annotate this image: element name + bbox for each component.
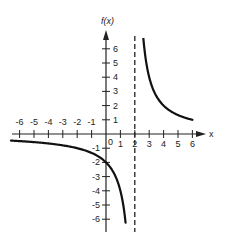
x-tick-label: -6 xyxy=(16,117,24,127)
x-axis-arrow-icon xyxy=(196,131,206,137)
y-tick-label: -2 xyxy=(92,157,100,167)
y-tick-label: 4 xyxy=(113,72,118,82)
y-tick-label: 2 xyxy=(113,101,118,111)
x-tick-label: -3 xyxy=(59,117,67,127)
y-tick-label: 3 xyxy=(113,86,118,96)
function-graph: -6-5-4-3-2-1123456-6-5-4-3-2-1123456 f(x… xyxy=(0,0,225,252)
y-tick-label: -1 xyxy=(92,143,100,153)
right-branch-curve xyxy=(143,36,192,120)
curves xyxy=(11,36,192,223)
left-branch-curve xyxy=(11,141,126,223)
y-axis-arrow-icon xyxy=(103,30,109,40)
y-tick-label: -4 xyxy=(92,186,100,196)
x-tick-label: 6 xyxy=(190,139,195,149)
x-tick-label: -1 xyxy=(88,117,96,127)
x-tick-label: -2 xyxy=(73,117,81,127)
x-tick-label: 3 xyxy=(147,139,152,149)
y-tick-label: 5 xyxy=(113,58,118,68)
y-tick-label: -6 xyxy=(92,214,100,224)
x-tick-label: 1 xyxy=(118,139,123,149)
y-axis-label: f(x) xyxy=(101,16,114,26)
y-tick-label: -3 xyxy=(92,172,100,182)
x-tick-label: 4 xyxy=(161,139,166,149)
y-tick-label: 6 xyxy=(113,44,118,54)
x-axis-label: x xyxy=(209,129,214,139)
x-tick-label: -4 xyxy=(44,117,52,127)
x-tick-label: 2 xyxy=(132,139,137,149)
origin-label: 0 xyxy=(108,137,113,147)
y-tick-label: 1 xyxy=(113,115,118,125)
x-tick-label: 5 xyxy=(175,139,180,149)
x-tick-label: -5 xyxy=(30,117,38,127)
axes xyxy=(12,30,206,232)
y-tick-label: -5 xyxy=(92,200,100,210)
